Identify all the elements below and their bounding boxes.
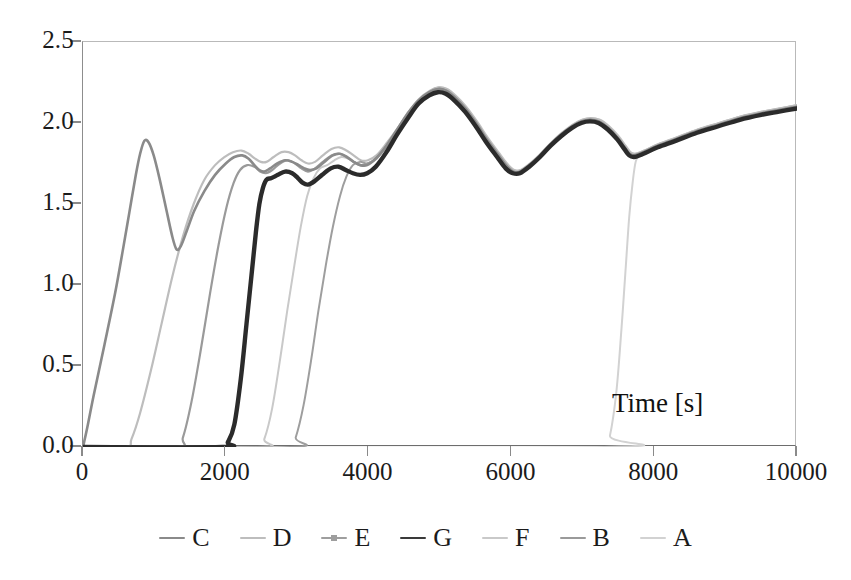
legend-item-c[interactable]: C [159,525,209,551]
legend-line-icon [560,537,586,539]
y-tick-label: 2.5 [18,27,74,52]
legend-swatch-d [240,531,266,545]
legend-line-icon [159,537,185,539]
legend-item-b[interactable]: B [560,525,610,551]
x-tick-mark [81,446,82,456]
x-tick-mark [795,446,796,456]
x-tick-label: 6000 [485,458,535,486]
x-tick-label: 2000 [200,458,250,486]
y-tick-label: 2.0 [18,108,74,133]
y-axis: 0.00.51.01.52.02.5 [0,0,74,460]
legend-label: B [593,525,610,551]
legend-swatch-b [560,531,586,545]
x-tick-label: 4000 [343,458,393,486]
x-tick-label: 8000 [628,458,678,486]
legend-label: E [354,525,370,551]
legend-item-e[interactable]: E [321,525,370,551]
y-tick-label: 1.0 [18,270,74,295]
legend-swatch-a [640,531,666,545]
legend-label: G [433,525,452,551]
legend-item-g[interactable]: G [400,525,452,551]
x-axis-title: Time [s] [612,389,703,417]
x-tick-label: 10000 [765,458,828,486]
legend-item-a[interactable]: A [640,525,692,551]
legend-line-icon [482,537,508,539]
legend-item-f[interactable]: F [482,525,529,551]
legend-line-icon [640,537,666,539]
x-axis: 0200040006000800010000 [0,446,851,506]
x-tick-mark [367,446,368,456]
chart-root: 0.00.51.01.52.02.5 Water depth [m] Time … [0,0,851,580]
chart-canvas [83,42,797,447]
x-tick-label: 0 [76,458,89,486]
legend-label: A [673,525,692,551]
legend-label: C [192,525,209,551]
legend-label: D [273,525,292,551]
legend-square-marker-icon [331,535,337,541]
legend-swatch-g [400,531,426,545]
legend-swatch-e [321,531,347,545]
legend-item-d[interactable]: D [240,525,292,551]
legend-line-icon [400,537,426,539]
legend-swatch-f [482,531,508,545]
legend-line-icon [240,537,266,539]
plot-area [82,41,796,446]
x-tick-mark [224,446,225,456]
legend-swatch-c [159,531,185,545]
x-tick-mark [653,446,654,456]
x-tick-mark [510,446,511,456]
y-tick-label: 0.5 [18,351,74,376]
legend-label: F [515,525,529,551]
chart-legend: CDEGFBA [0,516,851,560]
y-tick-label: 1.5 [18,189,74,214]
